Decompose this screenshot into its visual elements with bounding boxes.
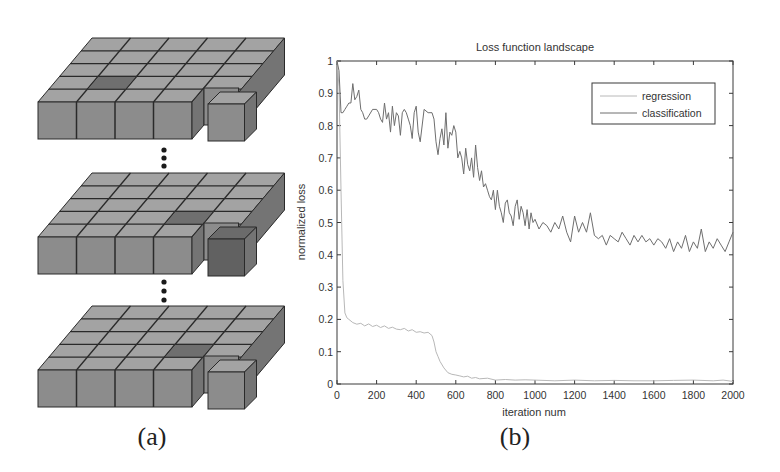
extracted-cube bbox=[208, 360, 257, 409]
y-tick-label: 0.8 bbox=[318, 120, 333, 132]
legend-label-regression: regression bbox=[642, 90, 691, 102]
y-tick-label: 1 bbox=[327, 55, 333, 67]
y-axis-label: normalized loss bbox=[295, 183, 307, 260]
x-tick-label: 800 bbox=[487, 389, 505, 401]
ellipsis-dot bbox=[161, 297, 166, 302]
ellipsis-dot bbox=[161, 147, 166, 152]
figure-panel-b: Loss function landscape 0200400600800100… bbox=[280, 0, 780, 472]
x-tick-label: 1000 bbox=[523, 389, 547, 401]
x-tick-label: 1800 bbox=[682, 389, 706, 401]
ellipsis-dot bbox=[161, 279, 166, 284]
loss-chart: Loss function landscape 0200400600800100… bbox=[280, 0, 780, 472]
extracted-cube bbox=[208, 92, 257, 141]
y-tick-label: 0.9 bbox=[318, 87, 333, 99]
cube-grid-illustration bbox=[0, 0, 320, 472]
x-tick-label: 400 bbox=[407, 389, 425, 401]
y-tick-label: 0 bbox=[327, 378, 333, 390]
ellipsis-dot bbox=[161, 163, 166, 168]
y-tick-label: 0.7 bbox=[318, 152, 333, 164]
x-tick-label: 1200 bbox=[563, 389, 587, 401]
cube-grid-block bbox=[38, 306, 285, 409]
caption-a: (a) bbox=[138, 422, 167, 452]
y-tick-label: 0.6 bbox=[318, 184, 333, 196]
cube-grid-block bbox=[38, 173, 285, 276]
legend-label-classification: classification bbox=[642, 107, 702, 119]
y-tick-label: 0.2 bbox=[318, 313, 333, 325]
x-tick-label: 1400 bbox=[603, 389, 627, 401]
chart-title: Loss function landscape bbox=[476, 41, 594, 53]
y-tick-label: 0.3 bbox=[318, 281, 333, 293]
chart-legend: regressionclassification bbox=[592, 83, 715, 124]
x-axis-label: iteration num bbox=[502, 406, 566, 418]
x-tick-label: 1600 bbox=[642, 389, 666, 401]
x-tick-label: 2000 bbox=[721, 389, 745, 401]
caption-b: (b) bbox=[500, 422, 530, 452]
figure-panel-a: (a) bbox=[0, 0, 320, 472]
ellipsis-dot bbox=[161, 288, 166, 293]
y-tick-label: 0.5 bbox=[318, 217, 333, 229]
x-tick-label: 0 bbox=[334, 389, 340, 401]
y-tick-label: 0.1 bbox=[318, 346, 333, 358]
extracted-cube bbox=[208, 227, 257, 276]
ellipsis-dot bbox=[161, 155, 166, 160]
x-tick-label: 600 bbox=[447, 389, 465, 401]
y-tick-label: 0.4 bbox=[318, 249, 333, 261]
x-tick-label: 200 bbox=[368, 389, 386, 401]
cube-grid-block bbox=[38, 38, 285, 141]
